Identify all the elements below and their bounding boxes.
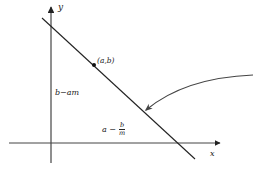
fraction: b m (118, 122, 126, 136)
y-axis-label: y (58, 3, 63, 12)
x-intercept-left: a − (102, 125, 116, 134)
pointer-arrow (146, 75, 253, 110)
fraction-denominator: m (118, 130, 126, 137)
x-axis-label: x (210, 150, 215, 158)
x-intercept-label: a − b m (102, 122, 126, 136)
point-a-b-dot (92, 63, 96, 67)
y-intercept-label: b−am (55, 89, 79, 97)
diagram-canvas (0, 0, 254, 169)
point-label: (a,b) (97, 57, 115, 65)
